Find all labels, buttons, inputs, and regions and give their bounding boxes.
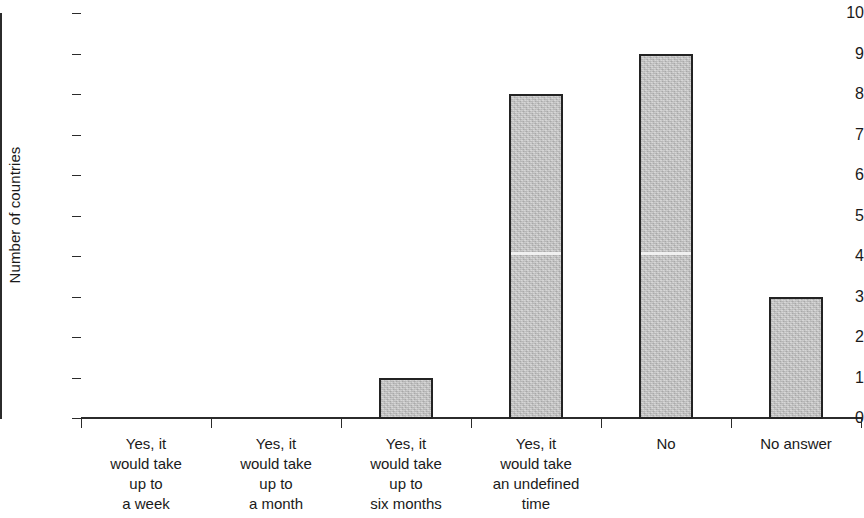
x-axis-category-label: Yes, it would take up to a week <box>81 434 211 514</box>
y-axis-line <box>0 13 2 419</box>
y-tick-mark <box>72 297 81 298</box>
x-tick-mark <box>211 419 212 428</box>
y-tick-label: 9 <box>798 46 864 62</box>
scan-artifact <box>641 252 691 255</box>
x-axis-category-label: Yes, it would take up to a month <box>211 434 341 514</box>
y-tick-mark <box>72 175 81 176</box>
y-tick-mark <box>72 54 81 55</box>
x-tick-mark <box>601 419 602 428</box>
scan-artifact <box>511 252 561 255</box>
x-tick-mark <box>861 419 862 428</box>
bar <box>769 297 823 420</box>
x-tick-mark <box>341 419 342 428</box>
y-tick-label: 8 <box>798 86 864 102</box>
y-tick-label: 4 <box>798 248 864 264</box>
x-axis-category-label: Yes, it would take an undefined time <box>471 434 601 514</box>
y-tick-mark <box>72 337 81 338</box>
x-tick-mark <box>731 419 732 428</box>
y-tick-mark <box>72 94 81 95</box>
bar <box>379 378 433 420</box>
bar <box>639 54 693 420</box>
y-tick-mark <box>72 13 81 14</box>
x-axis-category-label: No <box>601 434 731 454</box>
y-tick-mark <box>72 418 81 419</box>
y-tick-mark <box>72 216 81 217</box>
y-tick-mark <box>72 378 81 379</box>
y-tick-label: 6 <box>798 167 864 183</box>
y-tick-label: 5 <box>798 208 864 224</box>
y-tick-label: 10 <box>798 5 864 21</box>
y-tick-mark <box>72 256 81 257</box>
bar <box>509 94 563 419</box>
y-tick-mark <box>72 135 81 136</box>
x-axis-category-label: Yes, it would take up to six months <box>341 434 471 514</box>
y-axis-title: Number of countries <box>5 5 25 425</box>
bar-chart: Number of countries 012345678910 Yes, it… <box>0 0 864 518</box>
x-tick-mark <box>81 419 82 428</box>
y-tick-label: 7 <box>798 127 864 143</box>
x-axis-category-label: No answer <box>731 434 861 454</box>
x-tick-mark <box>471 419 472 428</box>
